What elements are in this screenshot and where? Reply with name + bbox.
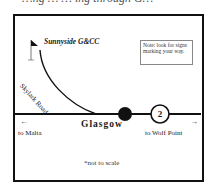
- arrow-right-icon: →: [190, 117, 198, 126]
- scale-note: *not to scale: [84, 159, 119, 167]
- note-box: Note: look for signs marking your way.: [140, 40, 193, 65]
- east-destination-label: to Wolf Point: [145, 129, 182, 137]
- route-number: 2: [151, 105, 169, 123]
- golf-course-label: Sunnyside G&CC: [44, 37, 99, 46]
- west-destination-label: to Malta: [18, 129, 42, 137]
- golf-flag-icon: [28, 40, 38, 60]
- arrow-left-icon: ←: [20, 117, 28, 126]
- skylark-road-line: [40, 50, 96, 114]
- town-label: Glasgow: [81, 119, 123, 129]
